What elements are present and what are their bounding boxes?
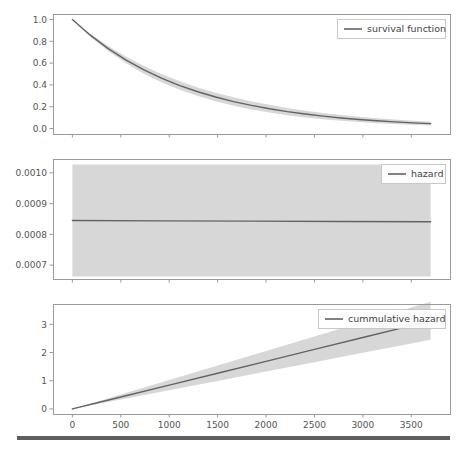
cummulative-hazard-panel-xtick-label: 1000 [158, 420, 181, 430]
cummulative-hazard-panel-legend[interactable]: cummulative hazard [319, 310, 446, 329]
hazard-panel-ytick-label: 0.0010 [16, 168, 48, 178]
cummulative-hazard-panel-xtick-label: 2000 [255, 420, 278, 430]
matplotlib-figure: 0.00.20.40.60.81.0survival function0.000… [0, 0, 463, 449]
survival-panel-ytick-label: 0.4 [33, 80, 48, 90]
cummulative-hazard-panel-ytick-label: 3 [41, 320, 47, 330]
survival-panel-ytick-label: 0.8 [33, 37, 48, 47]
survival-panel-ytick-label: 1.0 [33, 15, 48, 25]
hazard-panel-ytick-label: 0.0007 [16, 260, 48, 270]
hazard-panel-ytick-label: 0.0008 [16, 230, 48, 240]
cummulative-hazard-panel-xtick-label: 3000 [351, 420, 374, 430]
cummulative-hazard-panel-ytick-label: 0 [41, 404, 47, 414]
hazard-panel-legend-label: hazard [411, 168, 443, 179]
survival-panel-ytick-label: 0.0 [33, 124, 48, 134]
survival-panel-legend[interactable]: survival function [338, 20, 447, 39]
figure-canvas: 0.00.20.40.60.81.0survival function0.000… [0, 0, 463, 449]
cummulative-hazard-panel: 05001000150020002500300035000123cummulat… [41, 302, 450, 430]
hazard-panel-ytick-label: 0.0009 [16, 199, 48, 209]
survival-panel-ytick-label: 0.6 [33, 58, 48, 68]
bottom-rule [17, 436, 450, 440]
survival-panel: 0.00.20.40.60.81.0survival function [33, 15, 451, 138]
cummulative-hazard-panel-xtick-label: 1500 [206, 420, 229, 430]
survival-panel-legend-label: survival function [367, 23, 446, 34]
hazard-panel: 0.00070.00080.00090.0010hazard [16, 160, 451, 283]
cummulative-hazard-panel-legend-label: cummulative hazard [348, 313, 446, 324]
cummulative-hazard-panel-xtick-label: 3500 [400, 420, 423, 430]
hazard-panel-legend[interactable]: hazard [382, 165, 446, 184]
cummulative-hazard-panel-ytick-label: 1 [41, 376, 47, 386]
cummulative-hazard-panel-xtick-label: 2500 [303, 420, 326, 430]
cummulative-hazard-panel-xtick-label: 500 [112, 420, 129, 430]
cummulative-hazard-panel-xtick-label: 0 [70, 420, 76, 430]
survival-panel-ytick-label: 0.2 [33, 102, 47, 112]
cummulative-hazard-panel-line [72, 321, 430, 409]
cummulative-hazard-panel-ytick-label: 2 [41, 348, 47, 358]
